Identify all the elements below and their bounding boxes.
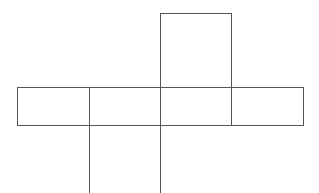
- top-face: [161, 14, 232, 88]
- cuboid-net-diagram: [0, 0, 319, 193]
- row-face-1: [18, 88, 90, 126]
- row-face-2: [90, 88, 161, 126]
- row-face-4: [232, 88, 304, 126]
- row-face-3: [161, 88, 232, 126]
